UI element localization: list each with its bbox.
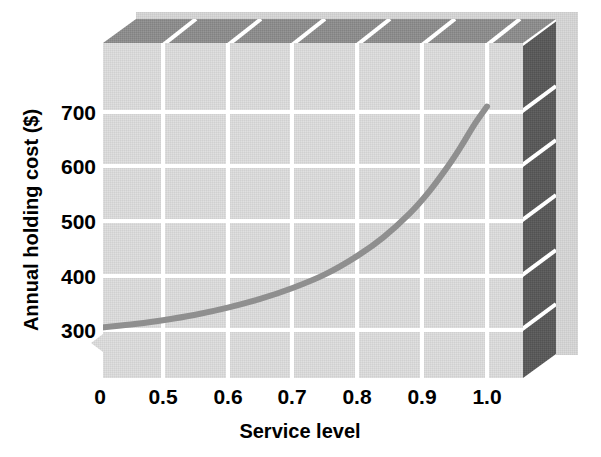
y-axis-title: Annual holding cost ($) <box>20 109 42 331</box>
y-tick-label-500: 500 <box>61 210 96 233</box>
y-tick-label-400: 400 <box>61 265 96 288</box>
x-axis-tick-labels: 0 0.5 0.6 0.7 0.8 0.9 1.0 <box>94 385 501 408</box>
x-tick-label-0.9: 0.9 <box>407 385 436 408</box>
x-tick-label-0.6: 0.6 <box>213 385 242 408</box>
y-tick-label-300: 300 <box>61 319 96 342</box>
plot-front-face <box>91 43 523 378</box>
y-axis-tick-labels: 700 600 500 400 300 <box>61 101 96 342</box>
y-tick-label-600: 600 <box>61 155 96 178</box>
x-tick-label-1.0: 1.0 <box>472 385 501 408</box>
chart-canvas: 0 0.5 0.6 0.7 0.8 0.9 1.0 700 600 500 40… <box>0 0 601 457</box>
chart-figure: 0 0.5 0.6 0.7 0.8 0.9 1.0 700 600 500 40… <box>0 0 601 457</box>
x-tick-label-0.5: 0.5 <box>148 385 178 408</box>
x-axis-title: Service level <box>239 420 360 442</box>
x-tick-label-0.7: 0.7 <box>277 385 306 408</box>
x-tick-label-0.8: 0.8 <box>342 385 372 408</box>
y-tick-label-700: 700 <box>61 101 96 124</box>
x-tick-label-0: 0 <box>94 385 106 408</box>
